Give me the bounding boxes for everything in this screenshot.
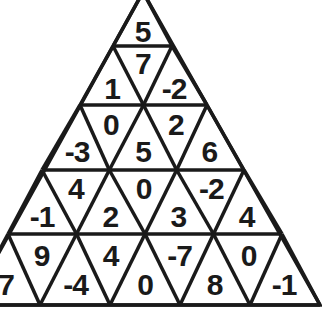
cell-r3-c5: -2 <box>199 174 224 204</box>
cell-r4-c2: -4 <box>63 270 88 300</box>
cell-r3-c2: 2 <box>102 202 118 232</box>
cell-r2-c2: 5 <box>135 137 151 167</box>
cell-r0-c0: 5 <box>135 17 151 47</box>
cell-r3-c1: 4 <box>68 174 84 204</box>
cell-r4-c0: 7 <box>0 270 14 300</box>
cell-r4-c7: 0 <box>241 241 257 271</box>
cell-r4-c6: 8 <box>207 270 223 300</box>
cell-r4-c1: 9 <box>34 241 50 271</box>
cell-r3-c3: 0 <box>136 174 152 204</box>
cell-r3-c4: 3 <box>171 202 187 232</box>
cell-r1-c1: 7 <box>135 49 151 79</box>
cell-r4-c4: 0 <box>137 270 153 300</box>
cell-r1-c0: 1 <box>104 74 120 104</box>
cell-r4-c3: 4 <box>103 241 119 271</box>
cell-r2-c3: 2 <box>168 110 184 140</box>
triangle-puzzle: 5 1 7 -2 -3 0 5 2 6 -1 4 2 0 3 -2 4 7 9 … <box>0 0 322 321</box>
cell-r4-c8: -1 <box>272 270 297 300</box>
cell-r1-c2: -2 <box>162 74 187 104</box>
cell-r2-c4: 6 <box>201 137 217 167</box>
cell-r3-c0: -1 <box>30 202 55 232</box>
cell-r3-c6: 4 <box>239 202 255 232</box>
cell-r2-c1: 0 <box>103 110 119 140</box>
cell-r2-c0: -3 <box>65 137 90 167</box>
cell-r4-c5: -7 <box>167 241 192 271</box>
